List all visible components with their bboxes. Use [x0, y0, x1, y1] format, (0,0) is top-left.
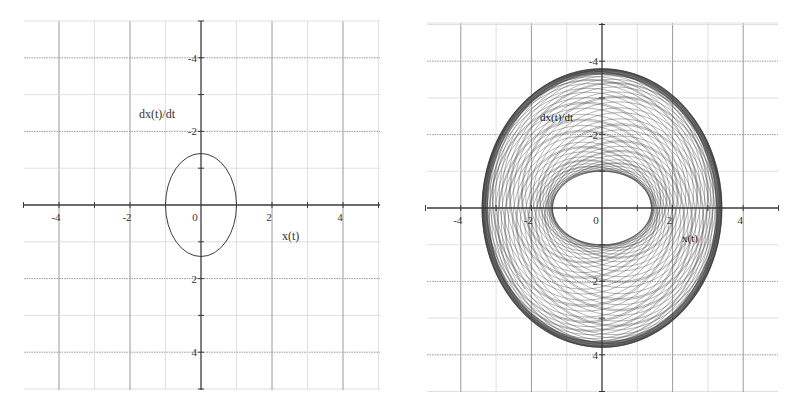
y-tick-label: 2: [593, 275, 599, 287]
x-tick-label: -4: [51, 211, 61, 223]
y-tick-label: 4: [593, 349, 599, 361]
x-axis-label: x(t): [282, 229, 299, 243]
x-tick-label: 4: [337, 211, 343, 223]
y-axis-label: dx(t)/dt: [139, 107, 176, 121]
y-tick-label: -4: [188, 52, 198, 64]
x-tick-label: 2: [266, 211, 272, 223]
x-tick-label: 0: [192, 211, 198, 223]
x-tick-label: -4: [453, 214, 463, 226]
y-tick-label: -4: [589, 55, 599, 67]
x-tick-label: 4: [737, 214, 743, 226]
left-phase-plot: -4-202442-2-4 dx(t)/dt x(t): [0, 0, 400, 406]
y-tick-label: -2: [188, 125, 197, 137]
x-tick-label: 2: [667, 214, 673, 226]
axes: [24, 21, 381, 390]
y-tick-label: 2: [192, 273, 198, 285]
axes: [426, 23, 779, 392]
right-phase-plot: -4-202442-2-4 dx(t)/dt x(t): [400, 0, 802, 406]
x-tick-label: -2: [122, 211, 131, 223]
x-tick-label: 0: [593, 214, 599, 226]
y-tick-label: 4: [192, 346, 198, 358]
y-tick-label: -2: [589, 129, 598, 141]
y-axis-label: dx(t)/dt: [540, 111, 573, 124]
x-axis-label: x(t): [682, 232, 698, 245]
x-tick-label: -2: [524, 214, 533, 226]
